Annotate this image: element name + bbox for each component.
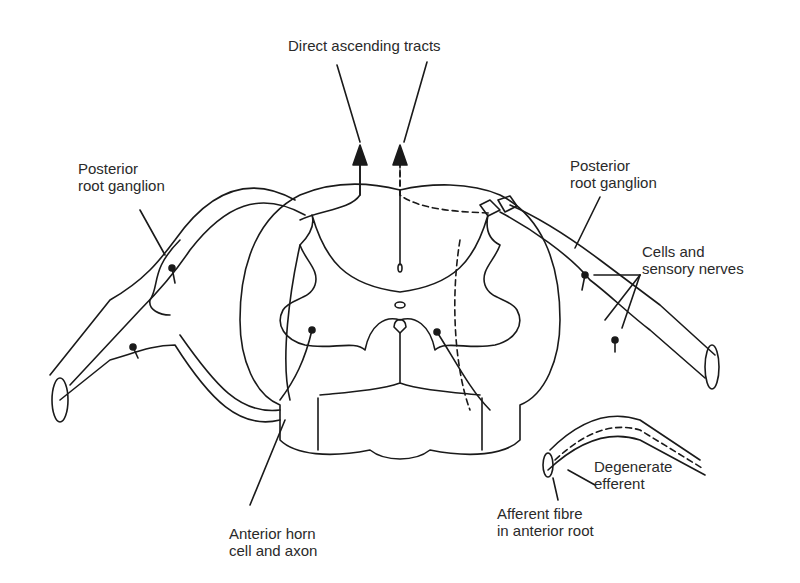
right-anterior-root xyxy=(550,416,700,460)
spinal-cord-diagram xyxy=(0,0,800,583)
label-degenerate-efferent: Degenerate efferent xyxy=(594,458,672,492)
label-anterior-horn-cell: Anterior horn cell and axon xyxy=(229,525,317,559)
label-right-posterior-root-ganglion: Posterior root ganglion xyxy=(570,157,657,191)
label-direct-ascending-tracts: Direct ascending tracts xyxy=(288,37,441,54)
label-cells-sensory-nerves: Cells and sensory nerves xyxy=(642,243,744,277)
right-posterior-root xyxy=(510,205,715,355)
label-left-posterior-root-ganglion: Posterior root ganglion xyxy=(78,160,165,194)
central-canal xyxy=(395,302,405,308)
left-posterior-root xyxy=(50,188,295,375)
label-afferent-fibre: Afferent fibre in anterior root xyxy=(497,505,594,539)
left-anterior-root xyxy=(60,345,280,422)
